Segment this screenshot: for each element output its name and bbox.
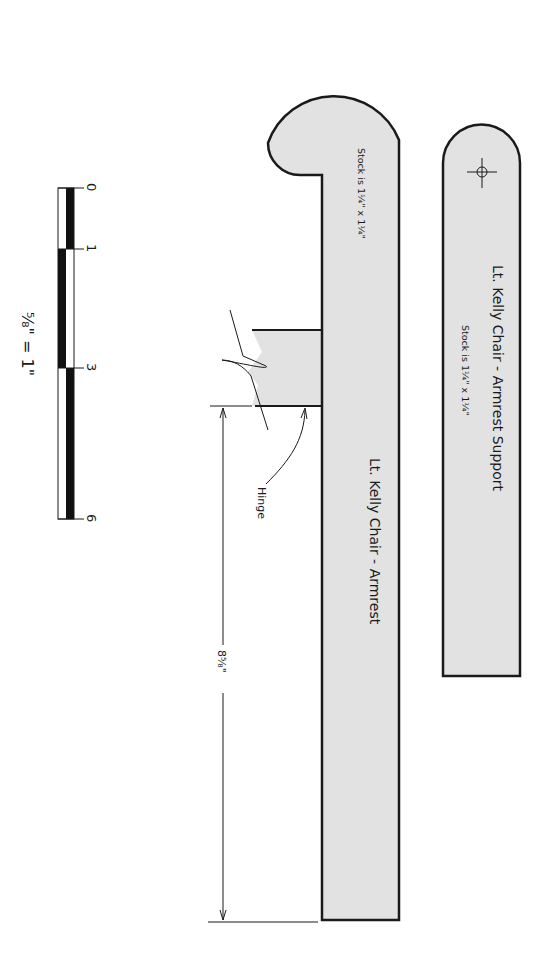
scale-tick-1: 1 bbox=[84, 244, 99, 252]
hinge-label: Hinge bbox=[255, 487, 268, 519]
hinge-leader-arrow bbox=[266, 410, 305, 484]
armrest-part: Stock is 1¼" x 1¼" Lt. Kelly Chair - Arm… bbox=[222, 96, 399, 920]
dimension-label: 8⅝" bbox=[215, 650, 228, 673]
support-title: Lt. Kelly Chair - Armrest Support bbox=[490, 265, 506, 492]
armrest-title: Lt. Kelly Chair - Armrest bbox=[367, 458, 383, 625]
scale-tick-6: 6 bbox=[84, 514, 99, 522]
scale-ratio-label: ⅝" = 1" bbox=[18, 312, 37, 376]
support-stock-note: Stock is 1¼" x 1¼" bbox=[460, 325, 471, 416]
scale-tick-0: 0 bbox=[84, 183, 99, 191]
armrest-support-part: Lt. Kelly Chair - Armrest Support Stock … bbox=[443, 124, 520, 676]
scale-tick-3: 3 bbox=[84, 363, 99, 371]
length-dimension: 8⅝" bbox=[208, 406, 318, 922]
diagram-canvas: Lt. Kelly Chair - Armrest Support Stock … bbox=[0, 0, 548, 974]
armrest-stock-note: Stock is 1¼" x 1¼" bbox=[356, 148, 367, 239]
scale-bar: 0 1 3 6 ⅝" = 1" bbox=[18, 183, 99, 522]
